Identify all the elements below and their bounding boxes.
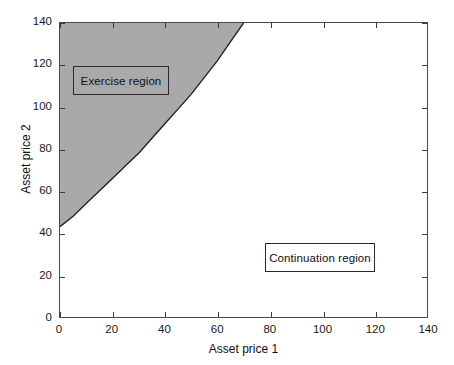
y-tick-mark xyxy=(422,150,427,151)
y-tick-mark xyxy=(422,23,427,24)
y-tick-label: 20 xyxy=(39,270,52,282)
y-tick-mark xyxy=(60,234,65,235)
exercise-region-label: Exercise region xyxy=(73,66,169,95)
y-tick-label: 40 xyxy=(39,228,52,240)
x-tick-mark xyxy=(165,312,166,317)
x-tick-label: 60 xyxy=(211,324,224,336)
y-tick-mark xyxy=(60,192,65,193)
y-tick-mark xyxy=(422,277,427,278)
y-tick-mark xyxy=(60,150,65,151)
y-tick-mark xyxy=(60,108,65,109)
y-tick-mark xyxy=(60,23,65,24)
x-tick-label: 0 xyxy=(56,324,62,336)
x-tick-label: 40 xyxy=(158,324,171,336)
y-axis-title: Asset price 2 xyxy=(19,89,33,229)
y-tick-mark xyxy=(422,192,427,193)
y-tick-label: 80 xyxy=(39,143,52,155)
y-tick-mark xyxy=(422,65,427,66)
x-tick-mark xyxy=(271,23,272,28)
y-tick-label: 120 xyxy=(33,59,52,71)
x-tick-mark xyxy=(60,312,61,317)
x-axis-title: Asset price 1 xyxy=(59,342,428,356)
x-tick-mark xyxy=(218,23,219,28)
x-tick-mark xyxy=(218,312,219,317)
x-tick-label: 100 xyxy=(313,324,332,336)
y-tick-label: 0 xyxy=(46,312,52,324)
x-tick-mark xyxy=(376,312,377,317)
x-tick-mark xyxy=(113,23,114,28)
x-tick-mark xyxy=(376,23,377,28)
y-tick-mark xyxy=(422,108,427,109)
y-tick-label: 60 xyxy=(39,185,52,197)
y-tick-mark xyxy=(60,277,65,278)
exercise-region-fill xyxy=(60,23,244,227)
x-tick-label: 80 xyxy=(263,324,276,336)
y-tick-mark xyxy=(422,234,427,235)
y-tick-label: 100 xyxy=(33,101,52,113)
x-tick-label: 120 xyxy=(366,324,385,336)
x-tick-mark xyxy=(165,23,166,28)
y-tick-mark xyxy=(60,65,65,66)
x-tick-mark xyxy=(113,312,114,317)
y-tick-label: 140 xyxy=(33,16,52,28)
x-tick-mark xyxy=(324,312,325,317)
figure-canvas: 020406080100120140 020406080100120140 As… xyxy=(0,0,454,365)
x-tick-label: 140 xyxy=(418,324,437,336)
x-tick-mark xyxy=(324,23,325,28)
x-tick-label: 20 xyxy=(105,324,118,336)
continuation-region-label: Continuation region xyxy=(265,243,375,272)
x-tick-mark xyxy=(271,312,272,317)
